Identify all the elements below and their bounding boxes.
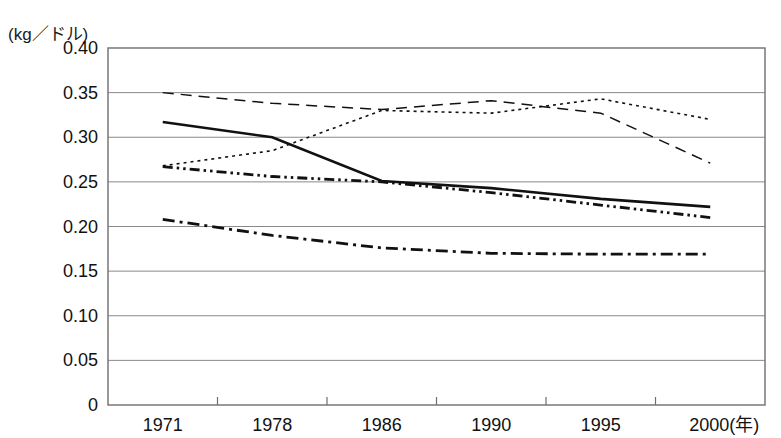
x-axis-tick-marks — [218, 397, 656, 405]
x-axis-tick-labels: 197119781986199019952000(年) — [143, 415, 760, 435]
data-series-group — [163, 93, 711, 255]
x-tick-label: 1986 — [362, 415, 402, 435]
series-solid — [163, 122, 711, 207]
line-chart: 0.400.350.300.250.200.150.100.050 197119… — [0, 0, 781, 438]
series-dash-dot — [163, 219, 711, 254]
y-tick-label: 0 — [88, 395, 98, 415]
x-tick-label: 2000(年) — [689, 415, 759, 435]
y-tick-label: 0.10 — [63, 306, 98, 326]
y-tick-label: 0.15 — [63, 261, 98, 281]
x-tick-label: 1971 — [143, 415, 183, 435]
y-tick-label: 0.40 — [63, 38, 98, 58]
chart-container: (kg／ドル) 0.400.350.300.250.200.150.100.05… — [0, 0, 781, 438]
y-tick-label: 0.20 — [63, 217, 98, 237]
series-long-dash — [163, 93, 711, 164]
y-tick-label: 0.30 — [63, 127, 98, 147]
y-axis-tick-labels: 0.400.350.300.250.200.150.100.050 — [63, 38, 98, 415]
x-tick-label: 1990 — [471, 415, 511, 435]
x-tick-label: 1978 — [252, 415, 292, 435]
x-tick-label: 1995 — [581, 415, 621, 435]
y-tick-label: 0.05 — [63, 350, 98, 370]
series-dash-dot-dot — [163, 167, 711, 218]
y-tick-label: 0.35 — [63, 83, 98, 103]
y-tick-label: 0.25 — [63, 172, 98, 192]
